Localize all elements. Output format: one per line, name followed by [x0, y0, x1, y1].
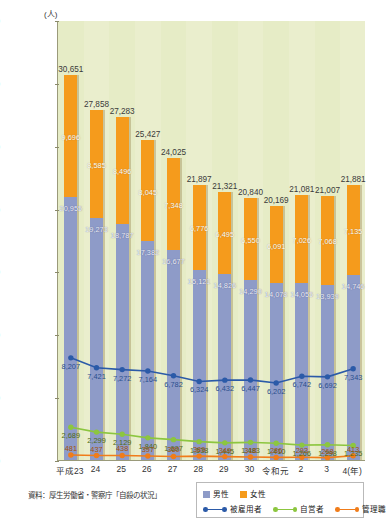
self-employed-point	[145, 435, 150, 440]
self-employed-point	[273, 441, 278, 446]
legend-item-male: 男性	[203, 488, 229, 499]
employed-point-label: 6,742	[293, 380, 312, 389]
bar-label-male: 14,078	[265, 290, 288, 299]
x-axis-label: 29	[219, 464, 228, 474]
self-employed-point	[171, 437, 176, 442]
manager-point-label: 397	[142, 445, 154, 454]
x-axis-label: 25	[116, 464, 125, 474]
legend-item-self-employed: 自営者	[273, 503, 324, 514]
manager-point-label: 268	[321, 447, 333, 456]
x-axis-label: 4(年)	[342, 464, 361, 476]
x-axis-label: 3	[324, 464, 329, 474]
y-axis-tick	[55, 461, 59, 462]
y-axis-tick	[55, 272, 59, 273]
manager-point	[145, 453, 150, 458]
self-employed-point	[196, 439, 201, 444]
employed-point-label: 6,202	[267, 387, 286, 396]
bar-total-label: 21,897	[187, 175, 212, 184]
employed-point	[325, 374, 330, 379]
self-employed-line-marker	[273, 506, 297, 513]
bar-label-male: 14,746	[342, 282, 365, 291]
bar-total-label: 27,283	[110, 107, 135, 116]
bar-label-female: 6,495	[216, 230, 235, 239]
employed-point	[248, 377, 253, 382]
bar-label-female: 7,026	[293, 236, 312, 245]
bar-label-male: 15,121	[188, 277, 211, 286]
female-color-swatch	[240, 491, 247, 498]
y-axis-tick	[55, 335, 59, 336]
legend-label-male: 男性	[213, 490, 229, 499]
manager-point-label: 286	[270, 446, 282, 455]
bar-label-male: 18,787	[111, 231, 134, 240]
y-axis-tick	[55, 398, 59, 399]
bar-label-male: 19,273	[85, 225, 108, 234]
bar-label-female: 6,776	[190, 224, 209, 233]
employed-point-label: 6,324	[190, 385, 209, 394]
x-axis-label: 平成23	[56, 464, 83, 476]
x-axis-label: 24	[91, 464, 100, 474]
manager-point-label: 293	[296, 446, 308, 455]
manager-point-label: 481	[65, 444, 77, 453]
y-axis-unit-label: (人)	[44, 8, 57, 19]
x-axis-label: 26	[142, 464, 151, 474]
bar-total-label: 24,025	[161, 148, 186, 157]
bar-total-label: 21,881	[341, 175, 366, 184]
x-axis-label: 令和元	[262, 464, 289, 476]
legend-label-self-employed: 自営者	[300, 505, 324, 514]
employed-point	[196, 379, 201, 384]
manager-point	[94, 453, 99, 458]
bar-label-female: 6,091	[267, 242, 286, 251]
bar-label-female: 9,696	[62, 133, 81, 142]
y-axis-tick	[55, 84, 59, 85]
manager-point-label: 438	[116, 444, 128, 453]
employed-point-label: 7,272	[113, 374, 132, 383]
y-axis-tick	[55, 210, 59, 211]
manager-point-label: 437	[90, 445, 102, 454]
employed-point-label: 8,207	[62, 362, 81, 371]
employed-point	[222, 377, 227, 382]
bar-label-female: 8,045	[139, 188, 158, 197]
y-axis-tick	[55, 147, 59, 148]
employed-point	[171, 373, 176, 378]
source-note: 資料：厚生労働省・警察庁「自殺の状況」	[28, 489, 161, 500]
x-axis-label: 2	[298, 464, 303, 474]
bar-total-label: 21,321	[212, 182, 237, 191]
manager-point-label: 318	[244, 446, 256, 455]
employed-point-label: 7,164	[139, 375, 158, 384]
self-employed-point	[68, 424, 73, 429]
bar-label-female: 7,135	[344, 227, 363, 236]
bar-label-female: 8,585	[87, 161, 106, 170]
employed-point-label: 6,782	[164, 380, 183, 389]
x-axis-label: 28	[193, 464, 202, 474]
bar-total-label: 20,169	[264, 196, 289, 205]
bar-total-label: 21,007	[315, 186, 340, 195]
legend-item-female: 女性	[240, 488, 266, 499]
employed-point	[273, 380, 278, 385]
bar-label-male: 14,826	[214, 281, 237, 290]
bar-total-label: 27,858	[84, 100, 109, 109]
self-employed-point	[248, 440, 253, 445]
employed-point	[119, 367, 124, 372]
plot-area: 8,2077,4217,2727,1646,7826,3246,4326,447…	[57, 21, 365, 461]
bar-total-label: 20,840	[238, 188, 263, 197]
employed-point	[94, 365, 99, 370]
employed-point-label: 6,447	[241, 384, 260, 393]
legend-item-manager: 管理職	[335, 503, 386, 514]
bar-label-male: 13,939	[316, 292, 339, 301]
employed-point-label: 6,692	[318, 381, 337, 390]
bar-label-male: 14,290	[239, 287, 262, 296]
legend-label-manager: 管理職	[362, 505, 386, 514]
employed-line-marker	[203, 506, 227, 513]
bar-total-label: 21,081	[289, 185, 314, 194]
male-color-swatch	[203, 491, 210, 498]
manager-point-label: 360	[167, 445, 179, 454]
bar-label-male: 17,382	[137, 248, 160, 257]
employed-point	[145, 368, 150, 373]
legend-label-employed: 被雇用者	[230, 505, 262, 514]
manager-point-label: 389	[193, 445, 205, 454]
employed-point	[68, 355, 73, 360]
legend-box: 男性 女性 被雇用者 自営者 管理職	[196, 482, 364, 518]
employed-point-label: 7,343	[344, 373, 363, 382]
manager-point	[119, 453, 124, 458]
